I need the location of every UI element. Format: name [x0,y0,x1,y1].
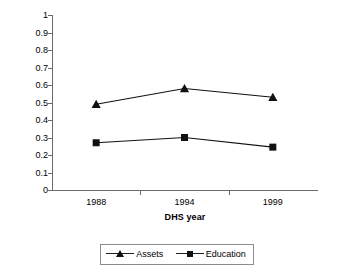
triangle-marker-icon [106,249,134,259]
y-tick-label: 0.5 [22,99,48,108]
x-axis-title: DHS year [52,212,318,222]
y-tick-mark [48,50,52,51]
square-marker [93,139,100,146]
square-marker [269,144,276,151]
x-tick-mark [229,191,230,195]
triangle-marker [268,93,277,101]
square-marker [181,134,188,141]
y-tick-label: 0.3 [22,134,48,143]
line-chart: Level of regional HI 00.10.20.30.40.50.6… [0,0,337,274]
y-tick-mark [48,103,52,104]
y-tick-mark [48,15,52,16]
y-tick-mark [48,155,52,156]
triangle-marker [180,84,189,92]
series-line-education [96,138,273,148]
y-tick-mark [48,173,52,174]
y-tick-label: 0.6 [22,81,48,90]
y-axis-line [52,15,53,191]
y-tick-label: 0.2 [22,151,48,160]
y-tick-label: 0 [22,186,48,195]
x-tick-mark [140,191,141,195]
x-tick-label: 1988 [66,197,126,208]
y-tick-mark [48,190,52,191]
y-tick-mark [48,138,52,139]
legend-entry[interactable]: Assets [106,249,163,259]
x-tick-label: 1994 [155,197,215,208]
legend-label: Assets [136,249,163,259]
square-marker-icon [176,249,204,259]
x-tick-label: 1999 [243,197,303,208]
legend: AssetsEducation [100,244,252,263]
y-tick-label: 0.1 [22,169,48,178]
x-axis-line [52,190,318,191]
y-tick-mark [48,85,52,86]
y-axis-tick-labels: 00.10.20.30.40.50.60.70.80.91 [22,15,48,190]
y-tick-mark [48,33,52,34]
legend-label: Education [206,249,246,259]
triangle-marker [92,100,101,108]
series-line-assets [96,89,273,105]
y-tick-mark [48,120,52,121]
legend-entry[interactable]: Education [176,249,246,259]
y-tick-label: 0.7 [22,64,48,73]
y-tick-label: 0.4 [22,116,48,125]
y-tick-label: 1 [22,11,48,20]
y-tick-label: 0.9 [22,29,48,38]
y-tick-label: 0.8 [22,46,48,55]
y-tick-mark [48,68,52,69]
